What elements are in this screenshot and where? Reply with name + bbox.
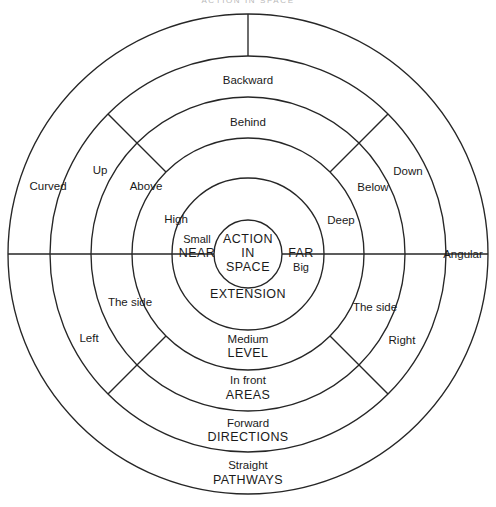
level-label-medium: Medium <box>228 333 269 345</box>
core-label-line3: SPACE <box>226 260 270 274</box>
divider-upper-right-diagonal <box>330 114 388 172</box>
core-labels: ACTION IN SPACE <box>223 232 273 274</box>
page-header-faint: ACTION IN SPACE <box>0 0 496 5</box>
areas-label-in-front: In front <box>230 374 267 386</box>
divider-lower-right-diagonal <box>330 336 388 394</box>
directions-label-backward: Backward <box>223 74 274 86</box>
extension-label-far: FAR <box>288 246 314 260</box>
level-label-deep: Deep <box>327 214 355 226</box>
extension-label-small: Small <box>183 233 211 245</box>
divider-lower-left-diagonal <box>108 336 166 394</box>
directions-label-forward: Forward <box>227 417 269 429</box>
core-label-line2: IN <box>241 246 255 260</box>
level-label-high: High <box>164 213 188 225</box>
extension-label-big: Big <box>293 261 309 273</box>
directions-label-left: Left <box>79 332 99 344</box>
directions-label-category: DIRECTIONS <box>207 430 288 444</box>
pathways-label-category: PATHWAYS <box>213 473 283 487</box>
directions-label-up: Up <box>93 164 108 176</box>
areas-label-above: Above <box>130 180 163 192</box>
pathways-label-curved: Curved <box>29 180 66 192</box>
extension-label-category: EXTENSION <box>210 287 286 301</box>
core-label-line1: ACTION <box>223 232 273 246</box>
pathways-label-angular: Angular <box>443 248 483 260</box>
level-label-category: LEVEL <box>228 346 269 360</box>
extension-label-near: NEAR <box>179 246 215 260</box>
areas-label-behind: Behind <box>230 116 266 128</box>
divider-upper-left-diagonal <box>108 114 166 172</box>
areas-label-side-right: The side <box>353 301 397 313</box>
directions-label-down: Down <box>393 165 422 177</box>
directions-label-right: Right <box>389 334 417 346</box>
areas-label-category: AREAS <box>226 388 270 402</box>
diagram-svg: ACTION IN SPACE Small NEAR FAR Big EXTEN… <box>0 0 496 507</box>
pathways-label-straight: Straight <box>228 459 268 471</box>
action-in-space-diagram: ACTION IN SPACE <box>0 0 496 507</box>
areas-label-below: Below <box>357 181 389 193</box>
areas-label-side-left: The side <box>108 296 152 308</box>
